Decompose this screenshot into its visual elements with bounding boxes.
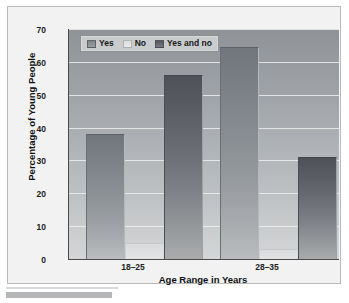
legend-swatch-icon xyxy=(123,40,132,48)
legend-item-yes-and-no: Yes and no xyxy=(155,39,212,48)
scan-artifact-line xyxy=(6,287,118,289)
bar-yes-and-no-28-35 xyxy=(298,157,337,259)
legend-item-yes: Yes xyxy=(87,39,114,48)
figure-frame: 70 60 50 40 30 20 10 0 Percentage of You… xyxy=(7,6,341,284)
x-tick-label: 18–25 xyxy=(103,263,163,272)
bar-yes-18-25 xyxy=(86,134,125,259)
bar-no-18-25 xyxy=(125,243,164,259)
y-axis-title: Percentage of Young People xyxy=(27,27,37,207)
bar-yes-28-35 xyxy=(220,47,259,259)
x-tick-label: 28–35 xyxy=(237,263,297,272)
legend-swatch-icon xyxy=(87,40,96,48)
legend-label: Yes and no xyxy=(167,39,212,48)
scan-artifact-bar xyxy=(6,292,112,298)
legend-swatch-icon xyxy=(155,40,164,48)
legend-item-no: No xyxy=(123,39,146,48)
chart-figure: 70 60 50 40 30 20 10 0 Percentage of You… xyxy=(0,0,349,303)
chart-legend: Yes No Yes and no xyxy=(80,35,219,52)
bar-no-28-35 xyxy=(259,249,298,259)
bar-yes-and-no-18-25 xyxy=(164,75,203,259)
y-tick-label: 10 xyxy=(16,223,46,232)
legend-label: No xyxy=(135,39,146,48)
plot-area: Yes No Yes and no xyxy=(68,29,339,260)
legend-label: Yes xyxy=(99,39,114,48)
y-tick-label: 0 xyxy=(16,256,46,265)
x-axis-title: Age Range in Years xyxy=(68,275,338,285)
bars-layer xyxy=(69,29,339,259)
